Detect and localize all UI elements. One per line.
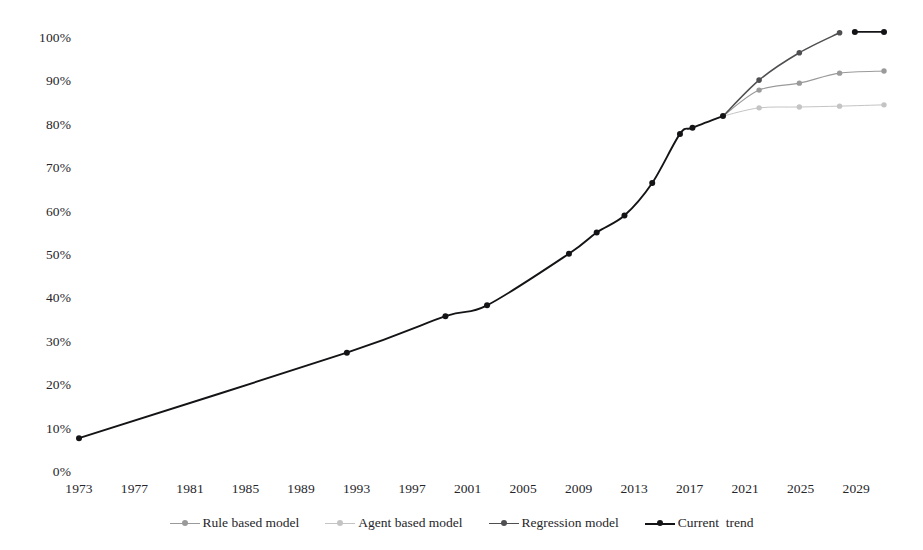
data-point-marker	[484, 302, 490, 308]
legend-label: Regression model	[522, 515, 619, 531]
series-current-trend-extension-	[852, 29, 887, 35]
x-axis-tick-label: 1989	[287, 481, 314, 497]
data-point-marker	[837, 103, 842, 108]
y-axis-tick-label: 10%	[46, 421, 71, 437]
x-axis-tick-label: 1977	[121, 481, 148, 497]
x-axis-tick-label: 2005	[509, 481, 536, 497]
y-axis-tick-label: 40%	[46, 290, 71, 306]
legend-item[interactable]: Agent based model	[325, 515, 462, 531]
legend-swatch-icon	[325, 517, 355, 529]
data-point-marker	[797, 104, 802, 109]
y-axis-tick-label: 20%	[46, 377, 71, 393]
data-point-marker	[852, 29, 858, 35]
legend-label: Current trend	[678, 515, 754, 531]
legend-swatch-icon	[645, 517, 675, 529]
y-axis-tick-label: 60%	[46, 204, 71, 220]
series-line	[723, 71, 884, 116]
x-axis-tick-label: 1993	[343, 481, 370, 497]
x-axis-tick-label: 2029	[843, 481, 870, 497]
data-point-marker	[881, 102, 886, 107]
legend-item[interactable]: Rule based model	[170, 515, 300, 531]
series-line	[723, 33, 840, 116]
data-point-marker	[756, 87, 761, 92]
y-axis-tick-label: 90%	[46, 73, 71, 89]
data-point-marker	[566, 251, 572, 257]
legend-label: Rule based model	[203, 515, 300, 531]
data-point-marker	[756, 105, 761, 110]
x-axis-tick-label: 1981	[176, 481, 203, 497]
data-point-marker	[797, 50, 803, 56]
x-axis-tick-label: 1985	[232, 481, 259, 497]
data-point-marker	[881, 68, 886, 73]
y-axis-tick-label: 0%	[53, 464, 71, 480]
series-rule-based-model	[723, 68, 887, 116]
x-axis-tick-label: 2025	[787, 481, 814, 497]
y-axis-tick-label: 50%	[46, 247, 71, 263]
x-axis-tick-label: 1997	[398, 481, 425, 497]
line-chart-plot	[0, 0, 923, 550]
data-point-marker	[837, 70, 842, 75]
series-agent-based-model	[723, 102, 887, 116]
legend-label: Agent based model	[358, 515, 462, 531]
x-axis-tick-label: 1973	[65, 481, 92, 497]
data-point-marker	[797, 80, 802, 85]
series-regression-model	[723, 30, 842, 116]
legend-swatch-icon	[489, 517, 519, 529]
data-point-marker	[881, 29, 887, 35]
data-point-marker	[76, 435, 82, 441]
y-axis-tick-label: 80%	[46, 117, 71, 133]
data-point-marker	[649, 180, 655, 186]
data-point-marker	[837, 30, 843, 36]
x-axis-tick-label: 2001	[454, 481, 481, 497]
data-point-marker	[677, 131, 683, 137]
y-axis-tick-label: 100%	[39, 30, 71, 46]
data-point-marker	[689, 125, 695, 131]
data-point-marker	[756, 77, 762, 83]
legend-swatch-icon	[170, 517, 200, 529]
series-current-trend	[76, 113, 726, 441]
x-axis-tick-label: 2013	[620, 481, 647, 497]
x-axis-tick-label: 2017	[676, 481, 703, 497]
data-point-marker	[621, 213, 627, 219]
legend-item[interactable]: Regression model	[489, 515, 619, 531]
series-line	[79, 116, 723, 438]
x-axis-tick-label: 2009	[565, 481, 592, 497]
y-axis-tick-label: 70%	[46, 160, 71, 176]
data-point-marker	[594, 229, 600, 235]
series-line	[723, 105, 884, 116]
data-point-marker	[720, 113, 726, 119]
data-point-marker	[442, 313, 448, 319]
x-axis-tick-label: 2021	[732, 481, 759, 497]
chart-container: 0%10%20%30%40%50%60%70%80%90%100% 197319…	[0, 0, 923, 550]
data-point-marker	[344, 350, 350, 356]
legend-item[interactable]: Current trend	[645, 515, 754, 531]
y-axis-tick-label: 30%	[46, 334, 71, 350]
chart-legend: Rule based modelAgent based modelRegress…	[0, 508, 923, 538]
